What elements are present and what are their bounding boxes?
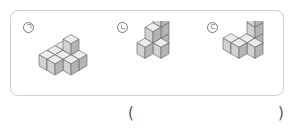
answer-blank[interactable] (148, 104, 274, 122)
answer-close-paren: ) (278, 104, 284, 122)
figure-a-cubes (33, 23, 109, 93)
answer-open-paren: ( (128, 104, 134, 122)
figure-b-cubes (123, 21, 199, 93)
figures-panel: ㄱ ㄴ ㄷ (10, 10, 284, 96)
figure-c-cubes (209, 21, 285, 93)
